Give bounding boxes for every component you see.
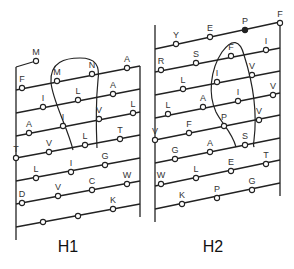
node-label: S	[242, 131, 248, 141]
node-L	[130, 110, 135, 115]
node-L	[180, 86, 185, 91]
node-label: G	[171, 145, 178, 155]
node-T	[13, 155, 18, 160]
node-T	[117, 136, 122, 141]
hamiltonian-diagram: MFMNAILAAIVLTVLTLIGDVCWK YEPFRSFILIVLAIV…	[0, 0, 294, 269]
node-blank	[40, 219, 45, 224]
node-A	[124, 65, 129, 70]
node-L	[165, 111, 170, 116]
node-label: I	[265, 36, 268, 46]
node-label: T	[13, 144, 19, 154]
node-L	[75, 97, 80, 102]
node-K	[179, 201, 184, 206]
node-N	[89, 71, 94, 76]
node-I	[68, 169, 73, 174]
node-V	[249, 72, 254, 77]
node-label: I	[42, 93, 45, 103]
node-label: G	[101, 151, 108, 161]
node-E	[228, 168, 233, 173]
node-L	[82, 142, 87, 147]
node-label: R	[158, 56, 165, 66]
node-label: V	[55, 182, 61, 192]
node-label: A	[110, 80, 116, 90]
node-label: L	[165, 100, 170, 110]
node-F	[277, 20, 282, 25]
node-label: L	[82, 131, 87, 141]
node-V	[55, 193, 60, 198]
node-label: L	[193, 164, 198, 174]
node-label: L	[180, 75, 185, 85]
node-label: K	[110, 195, 116, 205]
node-V	[256, 117, 261, 122]
node-T	[263, 161, 268, 166]
node-label: D	[19, 189, 26, 199]
node-label: P	[214, 184, 220, 194]
caption-h2: H2	[203, 238, 224, 255]
node-A	[110, 91, 115, 96]
node-V	[270, 92, 275, 97]
node-label: A	[26, 119, 32, 129]
node-V	[152, 137, 157, 142]
node-R	[158, 67, 163, 72]
node-L	[33, 175, 38, 180]
node-F	[19, 85, 24, 90]
node-label: M	[53, 67, 61, 77]
node-V	[46, 149, 51, 154]
node-label: E	[207, 23, 213, 33]
node-P	[242, 27, 247, 32]
node-C	[89, 187, 94, 192]
node-label: L	[75, 86, 80, 96]
node-label: V	[270, 81, 276, 91]
node-label: A	[124, 54, 130, 64]
node-label: T	[117, 125, 123, 135]
node-W	[158, 181, 163, 186]
panel-h2: YEPFRSFILIVLAIVVFPVGASWLETKPG	[152, 9, 283, 222]
node-I	[40, 104, 45, 109]
node-I	[60, 123, 65, 128]
node-D	[19, 200, 24, 205]
node-blank	[75, 213, 80, 218]
node-label: L	[130, 99, 135, 109]
node-label: V	[256, 106, 262, 116]
node-label: N	[89, 60, 96, 70]
node-label: W	[123, 170, 132, 180]
node-label: W	[157, 170, 166, 180]
node-label: I	[216, 68, 219, 78]
node-label: P	[242, 16, 248, 26]
node-label: I	[237, 87, 240, 97]
node-I	[263, 47, 268, 52]
node-label: V	[46, 138, 52, 148]
node-label: T	[263, 150, 269, 160]
node-S	[193, 60, 198, 65]
node-label: G	[248, 176, 255, 186]
node-label: M	[32, 47, 40, 57]
node-label: F	[277, 9, 283, 19]
node-A	[26, 130, 31, 135]
node-label: V	[152, 126, 158, 136]
node-F	[228, 53, 233, 58]
node-label: Y	[173, 30, 179, 40]
node-A	[200, 104, 205, 109]
caption-h1: H1	[58, 238, 79, 255]
panel-h1: MFMNAILAAIVLTVLTLIGDVCWK	[13, 47, 140, 240]
node-F	[186, 130, 191, 135]
node-I	[235, 98, 240, 103]
node-label: F	[186, 119, 192, 129]
node-K	[110, 206, 115, 211]
node-label: L	[33, 164, 38, 174]
node-M	[33, 58, 38, 63]
node-V	[96, 116, 101, 121]
node-label: K	[179, 190, 185, 200]
node-P	[214, 195, 219, 200]
sloped-line	[16, 181, 140, 204]
node-label: E	[228, 157, 234, 167]
node-S	[242, 142, 247, 147]
node-Y	[173, 41, 178, 46]
node-A	[207, 149, 212, 154]
node-label: F	[19, 74, 25, 84]
node-label: V	[96, 105, 102, 115]
node-label: I	[62, 112, 65, 122]
sloped-line	[155, 160, 280, 186]
node-G	[102, 162, 107, 167]
node-G	[249, 187, 254, 192]
